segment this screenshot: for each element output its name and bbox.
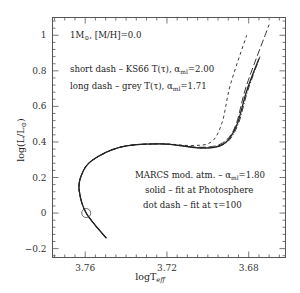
plot-frame <box>53 18 286 258</box>
x-tick-labels: 3.763.723.68 <box>75 263 259 273</box>
y-tick-labels: −0.200.20.40.60.81 <box>25 30 47 253</box>
x-tick-label: 3.68 <box>239 263 259 273</box>
y-tick-label: 0.8 <box>32 66 47 76</box>
model-label: 1M⊙, [M/H]=0.0 <box>70 30 142 41</box>
y-tick-label: 0.6 <box>32 101 47 111</box>
x-tick-label: 3.72 <box>157 263 177 273</box>
y-tick-label: −0.2 <box>25 244 47 254</box>
legend-solid: solid – fit at Photosphere <box>145 185 253 195</box>
x-tick-label: 3.76 <box>75 263 95 273</box>
x-axis-title: logTeff <box>135 271 166 284</box>
y-axis-ticks <box>53 21 286 256</box>
y-tick-label: 0 <box>41 208 47 218</box>
y-tick-label: 1 <box>41 30 47 40</box>
y-tick-label: 0.2 <box>32 173 46 183</box>
legend-dot-dash: dot dash – fit at τ=100 <box>143 200 242 210</box>
x-axis-ticks <box>55 18 280 258</box>
legend-short-dash: short dash – KS66 T(τ), αml=2.00 <box>70 64 214 75</box>
legend-marcs: MARCS mod. atm. – αml=1.80 <box>135 170 265 181</box>
hr-diagram-chart: 3.763.723.68 −0.200.20.40.60.81 1M⊙, [M/… <box>0 0 300 293</box>
legend-long-dash: long dash – grey T(τ), αml=1.71 <box>70 81 207 92</box>
y-axis-title: log(L/L⊙) <box>15 118 28 162</box>
y-tick-label: 0.4 <box>32 137 47 147</box>
